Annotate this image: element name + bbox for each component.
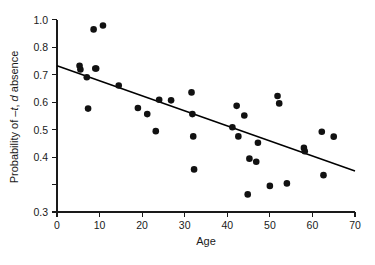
data-point — [189, 111, 196, 118]
x-tick-label: 30 — [179, 219, 191, 231]
data-point — [77, 66, 84, 73]
y-tick-label: 0.4 — [33, 151, 48, 163]
x-tick-label: 10 — [94, 219, 106, 231]
data-point — [233, 103, 240, 110]
x-tick-label: 50 — [264, 219, 276, 231]
y-tick-label: 0.5 — [33, 124, 48, 136]
data-point — [90, 26, 97, 33]
data-point — [301, 148, 308, 155]
data-point — [135, 105, 142, 112]
y-axis-title: Probability of –t, d absence — [8, 51, 20, 184]
data-point — [246, 155, 253, 162]
y-tick-label: 0.8 — [33, 41, 48, 53]
data-point — [244, 191, 251, 198]
y-tick-label: 1.0 — [33, 14, 48, 26]
x-tick-label: 60 — [307, 219, 319, 231]
data-point — [152, 128, 159, 135]
data-point — [93, 65, 100, 72]
data-point — [84, 74, 91, 81]
data-point — [276, 100, 283, 107]
regression-line — [57, 66, 355, 171]
y-axis-tick-labels: 1.0 0.8 0.7 0.6 0.5 0.4 0.3 — [33, 14, 48, 219]
data-point — [115, 82, 122, 89]
data-point — [241, 112, 248, 119]
data-point — [235, 133, 242, 140]
y-tick-label: 0.7 — [33, 69, 48, 81]
x-axis-tick-labels: 0 10 20 30 40 50 60 70 — [54, 219, 361, 231]
data-point — [284, 180, 291, 187]
x-axis-ticks — [57, 212, 355, 217]
data-point — [253, 158, 260, 165]
data-point — [190, 133, 197, 140]
y-axis-title-suffix: absence — [8, 51, 20, 96]
data-point — [100, 22, 107, 29]
plot-canvas: 1.0 0.8 0.7 0.6 0.5 0.4 0.3 0 10 20 30 4… — [0, 0, 375, 265]
y-axis-title-prefix: Probability of – — [8, 110, 20, 184]
data-point — [168, 97, 175, 104]
data-points-layer — [76, 22, 337, 197]
y-axis-ticks — [52, 20, 57, 213]
x-tick-label: 40 — [221, 219, 233, 231]
y-tick-label: 0.3 — [33, 206, 48, 218]
data-point — [330, 133, 337, 140]
x-tick-label: 70 — [349, 219, 361, 231]
data-point — [318, 128, 325, 135]
data-point — [85, 105, 92, 112]
x-tick-label: 20 — [136, 219, 148, 231]
x-tick-label: 0 — [54, 219, 60, 231]
data-point — [229, 124, 236, 131]
data-point — [320, 172, 327, 179]
data-point — [156, 97, 163, 104]
data-point — [267, 183, 274, 190]
data-point — [191, 166, 198, 173]
data-point — [274, 93, 281, 100]
data-point — [255, 139, 262, 146]
scatter-plot-figure: 1.0 0.8 0.7 0.6 0.5 0.4 0.3 0 10 20 30 4… — [0, 0, 375, 265]
data-point — [188, 89, 195, 96]
data-point — [144, 111, 151, 118]
y-tick-label: 0.6 — [33, 96, 48, 108]
x-axis-title: Age — [196, 235, 216, 247]
